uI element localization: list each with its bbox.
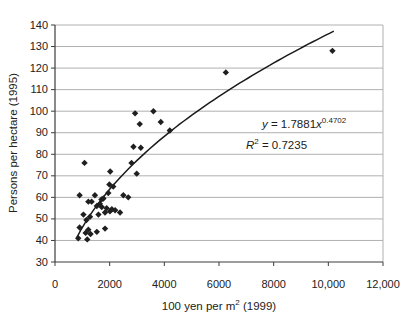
data-point <box>76 224 82 230</box>
y-tick-label: 30 <box>8 256 48 269</box>
x-tick-label: 2000 <box>97 278 121 290</box>
x-tick-label: 8000 <box>261 278 285 290</box>
y-tick-label: 60 <box>8 191 48 204</box>
y-tick-label: 130 <box>8 40 48 53</box>
x-tick-label: 10,000 <box>312 278 346 290</box>
data-point <box>158 119 164 125</box>
x-tick-label: 12,000 <box>366 278 400 290</box>
trendline-equation-label: y = 1.7881x0.4702 <box>262 118 346 130</box>
data-point <box>88 198 94 204</box>
data-point <box>95 211 101 217</box>
x-axis-title-text: 100 yen per m <box>162 300 236 312</box>
x-tick-label: 6000 <box>207 278 231 290</box>
data-point <box>223 69 229 75</box>
data-point <box>329 48 335 54</box>
y-tick-label: 70 <box>8 169 48 182</box>
x-axis-title: 100 yen per m2 (1999) <box>162 300 276 312</box>
y-tick-label: 80 <box>8 148 48 161</box>
data-point <box>105 190 111 196</box>
plot-area <box>0 0 409 328</box>
data-point <box>107 168 113 174</box>
data-point <box>130 144 136 150</box>
data-point <box>84 236 90 242</box>
y-tick-label: 100 <box>8 105 48 118</box>
data-point <box>102 225 108 231</box>
y-tick-label: 50 <box>8 212 48 225</box>
data-point <box>150 108 156 114</box>
y-tick-label: 90 <box>8 126 48 139</box>
r-squared-value: = 0.7235 <box>259 139 307 151</box>
y-tick-label: 120 <box>8 62 48 75</box>
y-tick-label: 110 <box>8 83 48 96</box>
trend-curve <box>77 31 334 237</box>
x-axis-title-year: (1999) <box>240 300 276 312</box>
y-tick-label: 40 <box>8 234 48 247</box>
data-point <box>128 160 134 166</box>
x-tick-label: 0 <box>52 278 58 290</box>
data-point <box>137 121 143 127</box>
data-point <box>81 160 87 166</box>
y-tick-label: 140 <box>8 19 48 32</box>
equation-exponent: 0.4702 <box>322 116 346 125</box>
data-point <box>94 229 100 235</box>
data-point <box>80 211 86 217</box>
x-tick-label: 4000 <box>152 278 176 290</box>
data-point <box>138 145 144 151</box>
scatter-chart: Persons per hectare (1995) 100 yen per m… <box>0 0 409 328</box>
r-squared-label: R2 = 0.7235 <box>246 139 307 151</box>
equation-coefficient: = 1.7881 <box>268 118 316 130</box>
